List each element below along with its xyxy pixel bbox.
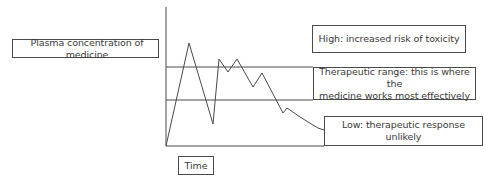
low-zone-label: Low: therapeutic response unlikely (324, 116, 483, 146)
y-axis-label: Plasma concentration of medicine (12, 39, 159, 58)
therapeutic-zone-label: Therapeutic range: this is where the med… (313, 67, 476, 100)
high-zone-label: High: increased risk of toxicity (312, 25, 466, 53)
x-axis-label: Time (178, 156, 214, 175)
concentration-curve (166, 43, 324, 146)
